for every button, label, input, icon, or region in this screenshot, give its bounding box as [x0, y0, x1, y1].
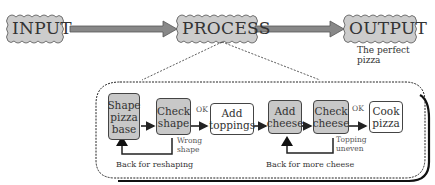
step-cook-pizza: Cook pizza	[369, 101, 403, 133]
process-label: PROCESS	[182, 18, 262, 38]
ok-label-2: OK	[352, 105, 364, 114]
output-caption: The perfect pizza	[357, 45, 435, 65]
step-check-cheese: Check cheese	[313, 100, 349, 134]
arrow-input-to-process	[70, 21, 177, 37]
step-shape-pizza-base: Shape pizza base	[108, 93, 140, 140]
back-for-more-cheese-label: Back for more cheese	[266, 160, 354, 169]
wrong-shape-label: Wrong shape	[177, 137, 203, 154]
ok-label-1: OK	[196, 106, 208, 115]
step-check-shape: Check shape	[156, 98, 191, 135]
input-label: INPUT	[12, 18, 66, 38]
output-label: OUTPUT	[349, 18, 423, 38]
back-for-reshaping-label: Back for reshaping	[116, 160, 193, 169]
topping-uneven-label: Topping uneven	[336, 136, 366, 153]
step-add-toppings: Add toppings	[210, 103, 254, 135]
step-add-cheese: Add cheese	[268, 100, 302, 134]
